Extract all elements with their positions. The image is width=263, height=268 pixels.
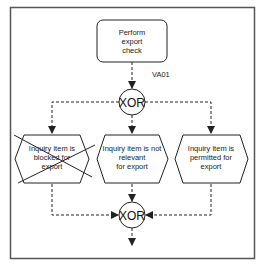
epc-diagram: Perform export check VA01 XOR Inquiry it…	[0, 0, 263, 268]
event-3-label-line-2: permitted for	[190, 153, 233, 162]
event-2-label-line-3: for export	[116, 162, 149, 171]
function-label-line-2: export	[122, 37, 144, 46]
xor-split-label: XOR	[119, 96, 145, 110]
event-permitted-for-export[interactable]: Inquiry item is permitted for export	[175, 135, 248, 183]
event-3-label-line-3: export	[201, 162, 223, 171]
event-1-label-line-1: Inquiry item is	[29, 144, 76, 153]
xor-join-label: XOR	[119, 209, 145, 223]
xor-join-connector[interactable]: XOR	[119, 202, 145, 228]
event-blocked-for-export[interactable]: Inquiry item is blocked for export	[14, 135, 95, 183]
event-not-relevant-for-export[interactable]: Inquiry item is not relevant for export	[97, 135, 168, 183]
event-2-label-line-2: relevant	[119, 153, 147, 162]
event-2-label-line-1: Inquiry item is not	[103, 144, 163, 153]
event-1-label-line-2: blocked for	[34, 153, 71, 162]
function-label-line-3: check	[122, 46, 142, 55]
function-label-line-1: Perform	[119, 28, 146, 37]
xor-split-connector[interactable]: XOR	[119, 89, 145, 115]
function-perform-export-check[interactable]: Perform export check	[97, 20, 167, 62]
transaction-code-label: VA01	[152, 70, 170, 79]
event-3-label-line-1: Inquiry item is	[188, 144, 235, 153]
